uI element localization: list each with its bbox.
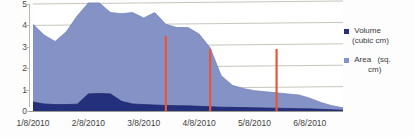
legend-unit-volume: (cubic cm): [352, 36, 415, 46]
legend-swatch-volume: [344, 29, 349, 34]
x-tick-label: 6/8/2010: [293, 119, 326, 128]
y-tick-mark: [25, 47, 29, 48]
x-axis-line: [29, 111, 343, 112]
x-tick-label: 2/8/2010: [72, 119, 105, 128]
area-chart: 012345 1/8/20102/8/20103/8/20104/8/20105…: [0, 0, 415, 137]
y-tick-mark: [25, 90, 29, 91]
x-axis: 1/8/20102/8/20103/8/20104/8/20105/8/2010…: [0, 111, 415, 137]
x-tick-label: 1/8/2010: [16, 119, 49, 128]
legend-unit-area-part2: cm): [368, 65, 415, 75]
legend-swatch-area: [344, 58, 349, 63]
y-axis-line: [29, 4, 30, 107]
y-axis: 012345: [0, 0, 33, 115]
legend-item-area[interactable]: Area (sq. cm): [344, 55, 415, 75]
x-tick-label: 5/8/2010: [238, 119, 271, 128]
y-tick-mark: [25, 68, 29, 69]
legend-label-volume: Volume: [354, 26, 381, 35]
legend-unit-area-part1: (sq.: [377, 55, 390, 64]
plot-area: [33, 4, 343, 111]
legend-label-area: Area: [354, 55, 371, 64]
x-tick-label: 3/8/2010: [127, 119, 160, 128]
y-tick-mark: [25, 4, 29, 5]
x-tick-label: 4/8/2010: [183, 119, 216, 128]
y-tick-mark: [25, 25, 29, 26]
chart-legend: Volume (cubic cm) Area (sq. cm): [344, 26, 415, 84]
legend-item-volume[interactable]: Volume (cubic cm): [344, 26, 415, 46]
marker-layer: [33, 4, 343, 111]
